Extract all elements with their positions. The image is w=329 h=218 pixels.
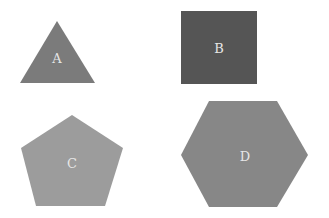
shape-d-hexagon: D [181,101,308,207]
shape-c-pentagon: C [21,115,123,206]
square-label: B [214,41,224,56]
hexagon-label: D [240,149,250,164]
shape-a-triangle: A [20,21,95,83]
shapes-diagram: A B C D [0,0,329,218]
triangle-label: A [51,51,62,66]
shape-b-square: B [181,11,257,84]
pentagon-label: C [67,156,77,171]
